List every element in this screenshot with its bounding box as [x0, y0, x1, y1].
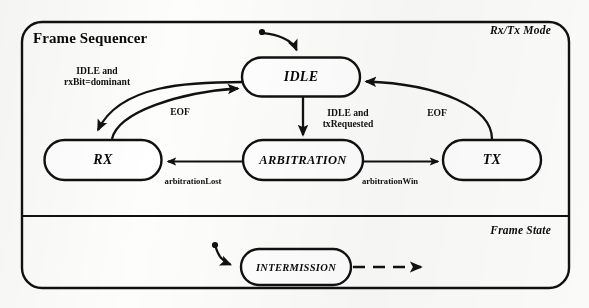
- edge-label-line-1: IDLE and: [323, 107, 374, 118]
- state-label-arbitration: ARBITRATION: [259, 153, 346, 168]
- edge-label-arbitration-to-rx: arbitrationLost: [165, 176, 222, 186]
- edge-label-idle-to-rx: IDLE and rxBit=dominant: [64, 65, 130, 88]
- transition-initial-to-intermission: [212, 242, 231, 265]
- edge-label-line-1: IDLE and: [64, 65, 130, 76]
- edge-label-tx-to-idle: EOF: [427, 107, 447, 118]
- diagram-canvas: Frame Sequencer Rx/Tx Mode Frame State I…: [0, 0, 589, 308]
- state-label-tx: TX: [483, 152, 502, 168]
- lane-title-frame-state: Frame State: [490, 224, 551, 236]
- lane-title-rx-tx-mode: Rx/Tx Mode: [490, 24, 551, 36]
- state-label-idle: IDLE: [284, 69, 319, 85]
- edge-label-rx-to-idle: EOF: [170, 106, 190, 117]
- edge-label-idle-to-arbitration: IDLE and txRequested: [323, 107, 374, 130]
- state-label-rx: RX: [93, 152, 112, 168]
- edge-label-line-2: rxBit=dominant: [64, 76, 130, 87]
- edge-label-line-2: txRequested: [323, 118, 374, 129]
- edge-label-arbitration-to-tx: arbitrationWin: [362, 176, 418, 186]
- state-label-intermission: INTERMISSION: [256, 262, 336, 273]
- transition-initial-to-idle: [259, 29, 297, 50]
- frame-sequencer-title: Frame Sequencer: [33, 30, 147, 47]
